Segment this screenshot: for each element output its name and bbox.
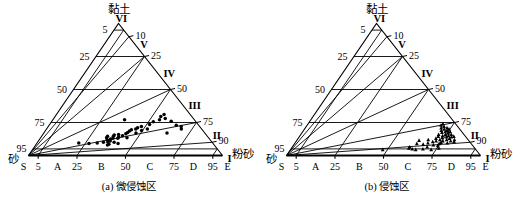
ternary-diagram-b: 黏土砂粉砂5255075959075502510525507595SABCDEI… <box>258 0 516 201</box>
bottom-axis-tick: 95 <box>466 161 476 172</box>
bottom-axis-tick: 25 <box>72 161 82 172</box>
data-point <box>112 133 116 137</box>
panel-a-caption: (a) 微侵蚀区 <box>0 178 258 193</box>
right-axis-label: 粉砂 <box>490 148 513 160</box>
left-axis-tick: 25 <box>80 51 90 62</box>
bottom-axis-letter: S <box>279 161 285 172</box>
data-point <box>148 123 152 127</box>
bottom-axis-tick: 5 <box>294 161 299 172</box>
data-point <box>116 142 120 146</box>
region-label: II <box>213 130 221 141</box>
bottom-axis-letter: A <box>54 161 62 172</box>
data-point <box>414 148 418 152</box>
bottom-axis-letter: S <box>21 161 27 172</box>
bottom-axis-tick: 75 <box>427 161 437 172</box>
region-label: III <box>446 100 458 111</box>
data-point <box>112 141 116 145</box>
data-point <box>95 141 99 145</box>
data-point <box>140 125 144 128</box>
region-label: V <box>398 39 406 50</box>
data-point <box>106 135 110 139</box>
right-axis-tick: 75 <box>203 116 213 127</box>
data-point <box>134 131 138 135</box>
data-point <box>77 141 81 145</box>
data-point <box>179 125 183 128</box>
region-label: IV <box>163 68 175 79</box>
left-axis-tick: 95 <box>17 143 27 154</box>
region-label: III <box>188 100 200 111</box>
left-axis-tick: 5 <box>361 24 366 35</box>
data-point <box>445 141 449 145</box>
data-point <box>121 134 125 138</box>
bottom-axis-tick: 25 <box>330 161 340 172</box>
figure-root: 黏土砂粉砂5255075959075502510525507595SABCDEI… <box>0 0 516 201</box>
data-point <box>106 143 110 147</box>
left-axis-tick: 5 <box>103 24 108 35</box>
region-label: IV <box>421 68 433 79</box>
region-label: V <box>140 39 148 50</box>
region-label: VI <box>115 13 127 24</box>
region-label: I <box>227 153 231 164</box>
bottom-axis-letter: A <box>312 161 320 172</box>
panel-a: 黏土砂粉砂5255075959075502510525507595SABCDEI… <box>0 0 258 201</box>
right-axis-tick: 25 <box>409 50 419 61</box>
data-point <box>136 126 140 130</box>
data-point <box>165 131 169 135</box>
data-point <box>437 132 441 136</box>
bottom-axis-tick: 50 <box>379 161 389 172</box>
left-axis-tick: 50 <box>57 84 67 95</box>
bottom-axis-letter: B <box>356 161 363 172</box>
data-point <box>87 142 91 146</box>
data-point <box>415 142 419 146</box>
data-point <box>159 115 163 119</box>
bottom-axis-tick: 50 <box>121 161 131 172</box>
left-axis-tick: 50 <box>315 84 325 95</box>
bottom-axis-tick: 75 <box>169 161 179 172</box>
region-label: II <box>471 130 479 141</box>
data-point <box>429 148 433 152</box>
bottom-axis-letter: C <box>404 161 411 172</box>
data-point <box>102 141 106 145</box>
data-point <box>453 138 457 142</box>
bottom-axis-letter: C <box>146 161 153 172</box>
data-point <box>125 136 129 140</box>
bottom-axis-letter: D <box>448 161 455 172</box>
data-point <box>169 119 173 123</box>
left-axis-tick: 95 <box>275 143 285 154</box>
bottom-axis-letter: D <box>190 161 197 172</box>
data-point <box>130 128 134 132</box>
right-axis-tick: 50 <box>177 83 187 94</box>
left-axis-tick: 25 <box>338 51 348 62</box>
data-point <box>175 123 179 127</box>
left-axis-tick: 75 <box>35 117 45 128</box>
panel-b-caption: (b) 侵蚀区 <box>258 178 516 193</box>
data-point <box>152 120 156 124</box>
right-axis-tick: 25 <box>151 50 161 61</box>
data-point <box>162 113 166 117</box>
right-axis-label: 粉砂 <box>232 148 255 160</box>
data-point <box>426 138 430 142</box>
bottom-axis-tick: 5 <box>36 161 41 172</box>
right-axis-tick: 50 <box>435 83 445 94</box>
data-point <box>417 138 421 142</box>
right-axis-tick: 75 <box>461 116 471 127</box>
data-point <box>117 133 121 137</box>
left-axis-label: 砂 <box>8 153 20 165</box>
data-point <box>158 118 162 122</box>
data-point-group <box>77 113 183 147</box>
data-point <box>164 117 168 121</box>
region-label: VI <box>373 13 385 24</box>
bottom-axis-tick: 95 <box>208 161 218 172</box>
data-point <box>421 142 425 146</box>
ternary-diagram-a: 黏土砂粉砂5255075959075502510525507595SABCDEI… <box>0 0 258 201</box>
data-point <box>140 129 144 133</box>
data-point <box>146 127 150 131</box>
panel-b: 黏土砂粉砂5255075959075502510525507595SABCDEI… <box>258 0 516 201</box>
region-label: I <box>485 153 489 164</box>
left-axis-label: 砂 <box>266 153 278 165</box>
data-point <box>431 140 435 144</box>
bottom-axis-letter: B <box>98 161 105 172</box>
left-axis-tick: 75 <box>293 117 303 128</box>
data-point <box>426 141 430 145</box>
data-point <box>123 118 127 122</box>
